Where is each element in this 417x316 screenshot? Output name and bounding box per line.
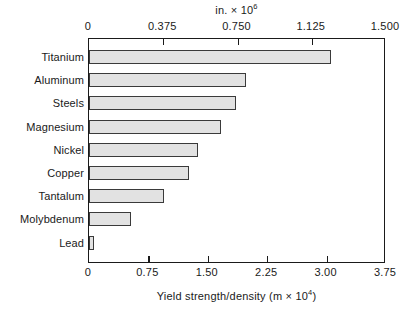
top-tickmark-1 [163,39,164,45]
top-tick-label-4: 1.500 [371,20,400,32]
bottom-tick-label-0: 0 [85,266,91,278]
bar-row [89,232,384,255]
top-tickmark-2 [238,39,239,45]
top-axis-title-text: in. × 10 [215,4,253,16]
category-label-molybdenum: Molybdenum [0,213,84,225]
top-tick-label-3: 1.125 [296,20,325,32]
bar-row [89,69,384,92]
bottom-tickmark-4 [327,256,328,262]
bar-steels [89,96,236,110]
bottom-tick-label-3: 2.25 [255,266,277,278]
bar-row [89,185,384,208]
bar-copper [89,166,189,180]
category-label-titanium: Titanium [0,51,84,63]
bottom-axis-title-text: Yield strength/density (m × 10 [157,290,308,302]
top-axis-title: in. × 106 [88,2,385,16]
bottom-axis-title: Yield strength/density (m × 104) [88,288,385,302]
bottom-tick-label-1: 0.75 [136,266,158,278]
top-tick-label-1: 0.375 [148,20,177,32]
top-axis-tick-labels: 00.3750.7501.1251.500 [0,20,417,34]
bar-tantalum [89,189,164,203]
bar-row [89,92,384,115]
top-axis-title-exponent: 6 [253,2,257,11]
bar-magnesium [89,120,221,134]
bar-row [89,208,384,231]
category-axis-labels: TitaniumAluminumSteelsMagnesiumNickelCop… [0,38,84,263]
bar-row [89,162,384,185]
top-tick-label-0: 0 [85,20,91,32]
top-tick-label-2: 0.750 [222,20,251,32]
category-label-aluminum: Aluminum [0,74,84,86]
bottom-tick-label-4: 3.00 [314,266,336,278]
bottom-tickmark-1 [148,256,149,262]
bar-chart-figure: in. × 106 00.3750.7501.1251.500 Titanium… [0,0,417,316]
category-label-lead: Lead [0,237,84,249]
bar-row [89,116,384,139]
bottom-tick-label-5: 3.75 [374,266,396,278]
bar-titanium [89,50,331,64]
category-label-nickel: Nickel [0,144,84,156]
bottom-tickmark-3 [267,256,268,262]
top-tickmark-3 [312,39,313,45]
bar-aluminum [89,73,246,87]
bar-row [89,46,384,69]
category-label-copper: Copper [0,167,84,179]
bar-row [89,139,384,162]
bottom-axis-tick-labels: 00.751.502.253.003.75 [0,266,417,280]
bars-layer [89,39,384,262]
bottom-tickmark-2 [208,256,209,262]
bottom-tick-label-2: 1.50 [196,266,218,278]
category-label-tantalum: Tantalum [0,190,84,202]
bar-lead [89,236,94,250]
bar-molybdenum [89,212,131,226]
bar-nickel [89,143,198,157]
plot-area [88,38,385,263]
category-label-magnesium: Magnesium [0,121,84,133]
bottom-axis-title-tail: ) [312,290,316,302]
category-label-steels: Steels [0,97,84,109]
